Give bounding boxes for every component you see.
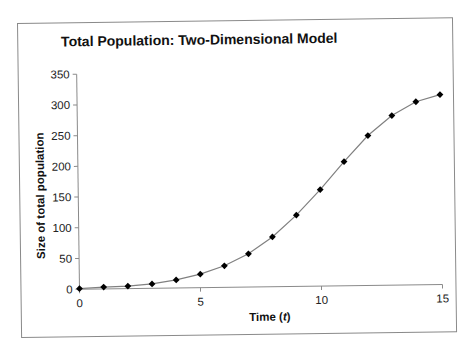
series-line xyxy=(77,95,442,289)
y-tick-label: 50 xyxy=(59,253,72,265)
plot-area: 050100150200250300350051015 xyxy=(18,18,458,339)
x-tick-label: 10 xyxy=(315,294,328,306)
y-tick-label: 200 xyxy=(52,160,71,172)
y-tick-label: 350 xyxy=(50,68,69,80)
data-point-marker xyxy=(76,285,83,292)
data-point-marker xyxy=(437,91,444,98)
data-point-marker xyxy=(173,277,180,284)
y-tick-label: 100 xyxy=(52,222,71,234)
data-point-marker xyxy=(149,281,156,288)
y-axis-line xyxy=(77,74,80,289)
data-point-marker xyxy=(412,98,419,105)
y-tick-label: 150 xyxy=(52,191,71,203)
x-tick-label: 5 xyxy=(197,296,204,308)
y-tick-label: 300 xyxy=(51,99,70,111)
data-point-marker xyxy=(100,284,107,291)
data-point-marker xyxy=(197,271,204,278)
y-tick-label: 250 xyxy=(51,130,70,142)
chart-frame: Total Population: Two-Dimensional Model … xyxy=(17,17,457,338)
y-tick-label: 0 xyxy=(66,283,73,295)
x-tick-label: 15 xyxy=(436,292,449,304)
data-point-marker xyxy=(221,262,228,269)
x-tick-label: 0 xyxy=(76,297,83,309)
